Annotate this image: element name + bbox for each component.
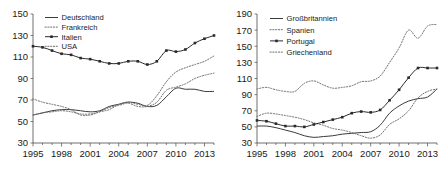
series-line-griechenland — [257, 24, 437, 92]
axis-lines — [33, 14, 214, 143]
y-tick-label: 150 — [12, 8, 28, 19]
x-tick-label: 1995 — [22, 148, 43, 159]
right-legend: GroßbritannienSpanienPortugalGriechenlan… — [270, 14, 337, 57]
legend-marker — [50, 35, 53, 38]
series-marker — [407, 76, 410, 79]
x-tick-label: 1998 — [51, 148, 72, 159]
y-tick-label: 170 — [236, 25, 252, 36]
series-marker — [256, 119, 259, 122]
series-line-usa — [33, 56, 214, 116]
series-marker — [70, 54, 73, 57]
series-marker — [41, 46, 44, 49]
x-tick-label: 2010 — [389, 148, 410, 159]
legend-label: Frankreich — [62, 23, 98, 32]
series-marker — [265, 120, 268, 123]
x-tick-label: 2013 — [417, 148, 438, 159]
series-marker — [156, 60, 159, 63]
x-tick-label: 2007 — [360, 148, 381, 159]
x-tick-label: 1998 — [275, 148, 296, 159]
left-chart-svg: 3050709011013015019951998200120042007201… — [0, 0, 221, 169]
series-line-spanien — [257, 89, 437, 138]
series-marker — [341, 116, 344, 119]
series-marker — [117, 62, 120, 65]
series-marker — [350, 112, 353, 115]
series-marker — [60, 52, 63, 55]
x-tick-label: 2007 — [137, 148, 158, 159]
y-tick-label: 30 — [241, 137, 252, 148]
series-line-großbritannien — [257, 89, 437, 137]
series-marker — [213, 34, 216, 37]
x-tick-label: 2004 — [332, 148, 353, 159]
y-tick-label: 90 — [241, 89, 252, 100]
y-tick-label: 130 — [236, 57, 252, 68]
series-marker — [89, 58, 92, 61]
series-marker — [303, 126, 306, 129]
series-marker — [398, 88, 401, 91]
series-marker — [331, 118, 334, 121]
series-marker — [79, 57, 82, 60]
series-marker — [322, 121, 325, 124]
series-marker — [436, 67, 439, 70]
series-marker — [369, 111, 372, 114]
y-tick-label: 50 — [241, 121, 252, 132]
series-marker — [51, 49, 54, 52]
series-marker — [165, 49, 168, 52]
series-marker — [108, 62, 111, 65]
series-marker — [388, 99, 391, 102]
series-marker — [284, 125, 287, 128]
series-marker — [184, 48, 187, 51]
y-tick-label: 70 — [17, 94, 28, 105]
series-marker — [175, 50, 178, 53]
series-marker — [379, 109, 382, 112]
y-tick-label: 150 — [236, 41, 252, 52]
y-tick-label: 70 — [241, 105, 252, 116]
series-marker — [194, 42, 197, 45]
series-marker — [294, 125, 297, 128]
series-marker — [275, 122, 278, 125]
legend-label: USA — [62, 42, 79, 51]
series-marker — [32, 45, 35, 48]
series-line-italien — [33, 36, 214, 65]
legend-label: Italien — [62, 33, 82, 42]
legend-label: Deutschland — [62, 13, 104, 22]
y-tick-label: 30 — [17, 137, 28, 148]
x-tick-label: 2010 — [165, 148, 186, 159]
figure-two-panel-line-charts: 3050709011013015019951998200120042007201… — [0, 0, 442, 169]
chart-panel-right: 3050709011013015017019019951998200120042… — [221, 0, 442, 169]
legend-label: Großbritannien — [287, 14, 338, 23]
left-legend: DeutschlandFrankreichItalienUSA — [45, 13, 104, 51]
y-tick-label: 90 — [17, 73, 28, 84]
y-tick-label: 110 — [13, 51, 28, 62]
legend-label: Griechenland — [287, 48, 332, 57]
legend-label: Portugal — [287, 37, 316, 46]
right-axes: 3050709011013015017019019951998200120042… — [236, 8, 438, 159]
chart-panel-left: 3050709011013015019951998200120042007201… — [0, 0, 221, 169]
x-tick-label: 2013 — [194, 148, 215, 159]
x-tick-label: 2004 — [108, 148, 129, 159]
series-marker — [98, 60, 101, 63]
y-tick-label: 50 — [17, 116, 28, 127]
right-chart-svg: 3050709011013015017019019951998200120042… — [221, 0, 442, 169]
series-marker — [136, 60, 139, 63]
x-tick-label: 1995 — [246, 148, 267, 159]
series-marker — [127, 60, 130, 63]
legend-label: Spanien — [287, 26, 315, 35]
series-marker — [313, 123, 316, 126]
series-line-frankreich — [33, 73, 214, 115]
series-marker — [203, 37, 206, 40]
right-series-group — [256, 24, 439, 138]
series-marker — [417, 67, 420, 70]
left-series-group — [32, 34, 216, 115]
x-tick-label: 2001 — [80, 148, 101, 159]
y-tick-label: 110 — [237, 73, 252, 84]
series-marker — [360, 110, 363, 113]
y-tick-label: 130 — [12, 30, 28, 41]
series-line-portugal — [257, 67, 437, 127]
series-marker — [146, 63, 149, 66]
x-tick-label: 2001 — [303, 148, 324, 159]
y-tick-label: 190 — [236, 8, 252, 19]
axis-lines — [257, 14, 437, 143]
series-marker — [426, 67, 429, 70]
legend-marker — [275, 40, 278, 43]
series-line-deutschland — [33, 88, 214, 115]
